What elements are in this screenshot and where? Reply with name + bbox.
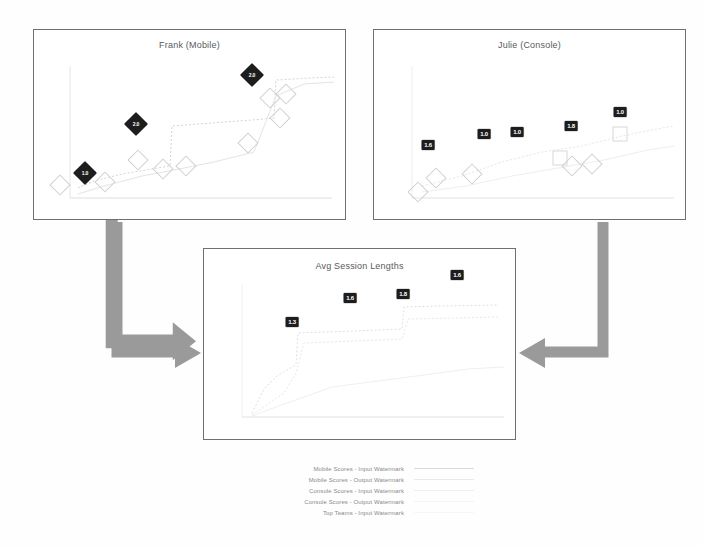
data-label-chip: 1.6 [422, 140, 435, 150]
data-label-marker: 2.0 [244, 67, 261, 84]
chart-panel-console[interactable]: Julie (Console) 1.6 1.0 1.0 1.8 1.0 [373, 29, 686, 220]
data-label-chip: 1.3 [286, 317, 299, 327]
legend-swatch [414, 468, 474, 469]
data-label-chip: 1.0 [511, 127, 524, 137]
legend-item: Mobile Scores - Output Watermark [0, 474, 703, 485]
legend-swatch [414, 490, 474, 491]
legend-item: Top Teams - Input Watermark [0, 507, 703, 518]
legend-swatch [414, 479, 474, 480]
data-label-chip: 1.0 [614, 107, 627, 117]
data-label-chip: 1.0 [478, 129, 491, 139]
legend-swatch [414, 501, 474, 502]
data-label-chip: 1.8 [397, 289, 410, 299]
legend: Mobile Scores - Input Watermark Mobile S… [0, 463, 703, 518]
chart-title-combined: Avg Session Lengths [204, 261, 515, 271]
chart-panel-combined[interactable]: Avg Session Lengths 1.3 1.6 1.8 1.6 [203, 248, 516, 440]
data-label-marker: 2.0 [128, 116, 145, 133]
plot-area-combined [212, 279, 509, 434]
chart-title-console: Julie (Console) [374, 40, 685, 50]
data-label-chip: 1.6 [451, 270, 464, 280]
arrow-mobile-to-combined [105, 220, 210, 380]
chart-panel-mobile[interactable]: Frank (Mobile) 1.0 [33, 29, 346, 220]
legend-swatch [414, 512, 474, 513]
legend-item-label: Console Scores - Input Watermark [229, 488, 404, 494]
arrow-console-to-combined [510, 220, 615, 380]
legend-item-label: Top Teams - Input Watermark [229, 510, 404, 516]
plot-area-mobile [42, 58, 339, 213]
legend-item-label: Console Scores - Output Watermark [229, 499, 404, 505]
legend-item: Console Scores - Input Watermark [0, 485, 703, 496]
data-label-chip: 1.8 [565, 121, 578, 131]
ghost-marker [613, 127, 628, 142]
data-label-chip: 1.6 [344, 293, 357, 303]
legend-item-label: Mobile Scores - Output Watermark [229, 477, 404, 483]
legend-item: Mobile Scores - Input Watermark [0, 463, 703, 474]
legend-item: Console Scores - Output Watermark [0, 496, 703, 507]
chart-title-mobile: Frank (Mobile) [34, 40, 345, 50]
legend-item-label: Mobile Scores - Input Watermark [229, 466, 404, 472]
data-label-marker: 1.0 [77, 165, 94, 182]
